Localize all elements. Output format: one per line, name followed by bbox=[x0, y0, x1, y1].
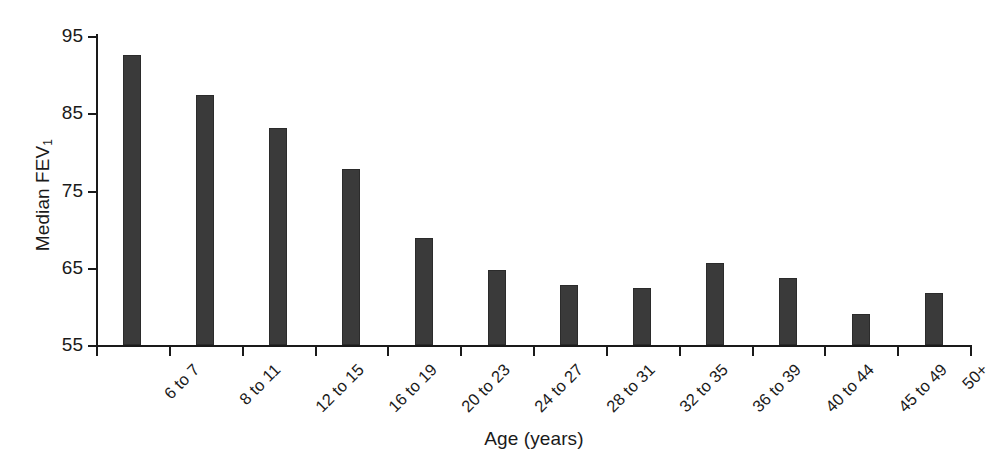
bar-chart-figure: Median FEV1 5565758595 6 to 78 to 1112 t… bbox=[0, 0, 1002, 469]
x-axis-tick-label-text: 6 to 7 bbox=[161, 360, 204, 403]
x-axis-tick-label-text: 20 to 23 bbox=[457, 360, 513, 416]
x-axis-tick-label: 36 to 39 bbox=[749, 360, 805, 416]
x-axis-tick-label-text: 12 to 15 bbox=[312, 360, 368, 416]
x-axis-tick-label: 16 to 19 bbox=[385, 360, 441, 416]
y-axis-title: Median FEV1 bbox=[30, 35, 56, 355]
x-axis-tick-label-text: 8 to 11 bbox=[236, 360, 285, 409]
bar bbox=[706, 263, 724, 345]
plot-area: 5565758595 bbox=[96, 36, 970, 345]
x-axis-tick-mark bbox=[606, 347, 608, 356]
y-axis-tick-label: 85 bbox=[62, 102, 83, 124]
x-axis-tick-label: 28 to 31 bbox=[603, 360, 659, 416]
y-axis-tick-mark bbox=[88, 268, 96, 270]
y-axis-tick-mark bbox=[88, 113, 96, 115]
x-axis-tick-label: 20 to 23 bbox=[457, 360, 513, 416]
bar bbox=[123, 55, 141, 345]
x-axis-tick-mark bbox=[897, 347, 899, 356]
bar bbox=[925, 293, 943, 345]
x-axis-tick-label-text: 32 to 35 bbox=[676, 360, 732, 416]
x-axis-tick-label-text: 50+ bbox=[958, 360, 991, 393]
x-axis-tick-label: 6 to 7 bbox=[161, 360, 204, 403]
x-axis-tick-mark bbox=[242, 347, 244, 356]
y-axis-tick-mark bbox=[88, 345, 96, 347]
x-axis-tick-mark bbox=[533, 347, 535, 356]
x-axis-tick-label-text: 40 to 44 bbox=[822, 360, 878, 416]
x-axis-tick-label: 12 to 15 bbox=[312, 360, 368, 416]
x-axis-tick-mark bbox=[679, 347, 681, 356]
bar bbox=[196, 95, 214, 345]
y-axis-tick-label: 55 bbox=[62, 334, 83, 356]
x-axis-tick-label: 45 to 49 bbox=[894, 360, 950, 416]
bar bbox=[342, 169, 360, 345]
x-axis-tick-mark bbox=[96, 347, 98, 356]
y-axis-tick-label: 65 bbox=[62, 257, 83, 279]
x-axis-tick-mark bbox=[315, 347, 317, 356]
bar bbox=[633, 288, 651, 345]
y-axis-tick-label: 75 bbox=[62, 180, 83, 202]
y-axis-title-subscript: 1 bbox=[41, 139, 55, 146]
bar bbox=[852, 314, 870, 345]
x-axis-tick-label: 24 to 27 bbox=[530, 360, 586, 416]
bar bbox=[779, 278, 797, 345]
x-axis-tick-label-text: 24 to 27 bbox=[530, 360, 586, 416]
x-axis-tick-label-text: 45 to 49 bbox=[894, 360, 950, 416]
y-axis-title-text: Median FEV bbox=[32, 146, 53, 252]
bar bbox=[415, 238, 433, 345]
y-axis-tick-mark bbox=[88, 36, 96, 38]
x-axis-tick-label-text: 16 to 19 bbox=[385, 360, 441, 416]
x-axis-tick-mark bbox=[169, 347, 171, 356]
x-axis-tick-label: 50+ bbox=[958, 360, 991, 393]
x-axis-tick-label-text: 36 to 39 bbox=[749, 360, 805, 416]
bar bbox=[488, 270, 506, 345]
bar bbox=[269, 128, 287, 345]
x-axis-tick-label: 40 to 44 bbox=[822, 360, 878, 416]
x-axis-tick-label-text: 28 to 31 bbox=[603, 360, 659, 416]
y-axis-tick-mark bbox=[88, 191, 96, 193]
x-axis-tick-mark bbox=[970, 347, 972, 356]
x-axis-tick-mark bbox=[387, 347, 389, 356]
x-axis-tick-label: 32 to 35 bbox=[676, 360, 732, 416]
bar bbox=[560, 285, 578, 345]
y-axis-tick-label: 95 bbox=[62, 25, 83, 47]
x-axis-tick-mark bbox=[752, 347, 754, 356]
x-axis-tick-mark bbox=[460, 347, 462, 356]
x-axis-title: Age (years) bbox=[96, 428, 972, 450]
x-axis-tick-mark bbox=[824, 347, 826, 356]
x-axis-tick-label: 8 to 11 bbox=[236, 360, 285, 409]
